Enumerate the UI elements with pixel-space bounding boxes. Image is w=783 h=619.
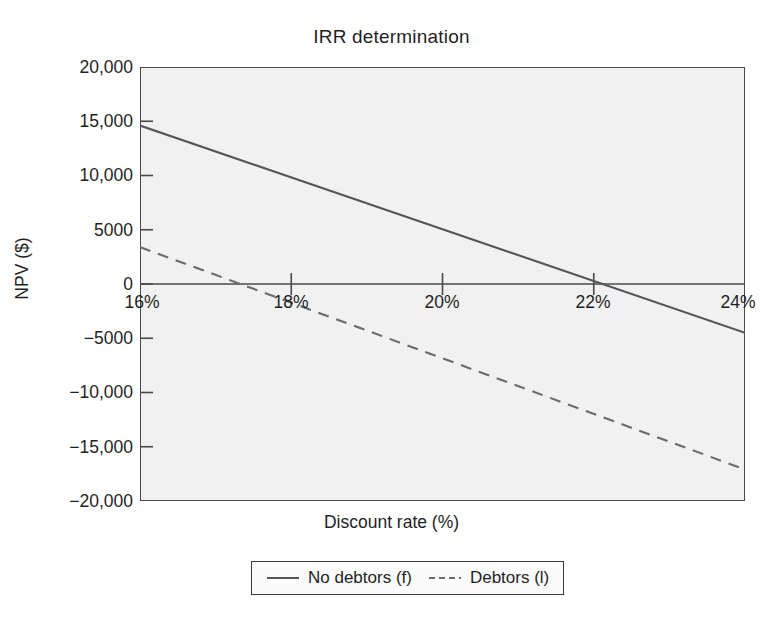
solid-line-swatch-icon — [266, 572, 300, 584]
y-tick-label: 10,000 — [13, 165, 133, 186]
x-axis-title: Discount rate (%) — [0, 512, 783, 533]
x-tick-label: 16% — [107, 292, 177, 313]
y-tick-label: −20,000 — [13, 491, 133, 512]
legend-label: Debtors (l) — [470, 568, 549, 588]
chart-figure: IRR determination 20,000 1 — [0, 0, 783, 619]
x-tick-label: 20% — [407, 292, 477, 313]
x-tick-label: 22% — [558, 292, 628, 313]
y-tick-label: 20,000 — [13, 57, 133, 78]
y-tick-label: −10,000 — [13, 382, 133, 403]
legend-label: No debtors (f) — [308, 568, 412, 588]
legend-entry-no-debtors: No debtors (f) — [266, 568, 412, 588]
y-axis-ticks — [140, 67, 153, 501]
legend-entry-debtors: Debtors (l) — [428, 568, 549, 588]
y-tick-label: 15,000 — [13, 111, 133, 132]
y-axis-title: NPV ($) — [12, 209, 33, 329]
x-tick-label: 18% — [256, 292, 326, 313]
dashed-line-swatch-icon — [428, 572, 462, 584]
y-tick-label: −5000 — [13, 328, 133, 349]
y-tick-label: −15,000 — [13, 437, 133, 458]
x-tick-label: 24% — [703, 292, 773, 313]
chart-legend: No debtors (f) Debtors (l) — [251, 561, 564, 595]
plot-lines-layer — [140, 67, 745, 501]
